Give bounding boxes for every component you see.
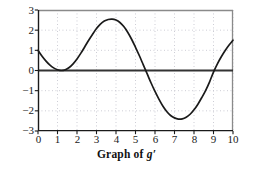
- xtick-label-5: 5: [128, 134, 143, 145]
- axis-ticks: [35, 10, 233, 134]
- ytick-label-neg2: −2: [16, 105, 34, 116]
- chart-caption: Graph of g′: [0, 148, 253, 160]
- xtick-label-3: 3: [89, 134, 104, 145]
- xtick-label-1: 1: [50, 134, 65, 145]
- caption-prime-symbol: ′: [153, 148, 156, 160]
- xtick-label-6: 6: [148, 134, 163, 145]
- ytick-label-neg1: −1: [16, 85, 34, 96]
- chart-canvas: [0, 0, 253, 171]
- ytick-label-3: 3: [20, 5, 34, 16]
- xtick-label-4: 4: [109, 134, 124, 145]
- curve-g-prime: [38, 19, 233, 119]
- xtick-label-0: 0: [31, 134, 46, 145]
- ytick-label-2: 2: [20, 25, 34, 36]
- ytick-label-0: 0: [20, 65, 34, 76]
- xtick-label-7: 7: [167, 134, 182, 145]
- caption-prefix: Graph of: [97, 148, 147, 160]
- xtick-label-9: 9: [206, 134, 221, 145]
- xtick-label-10: 10: [224, 134, 242, 145]
- xtick-label-2: 2: [70, 134, 85, 145]
- figure-container: 3 2 1 0 −1 −2 −3 0 1 2 3 4 5 6 7 8 9 10 …: [0, 0, 253, 171]
- xtick-label-8: 8: [187, 134, 202, 145]
- ytick-label-1: 1: [20, 45, 34, 56]
